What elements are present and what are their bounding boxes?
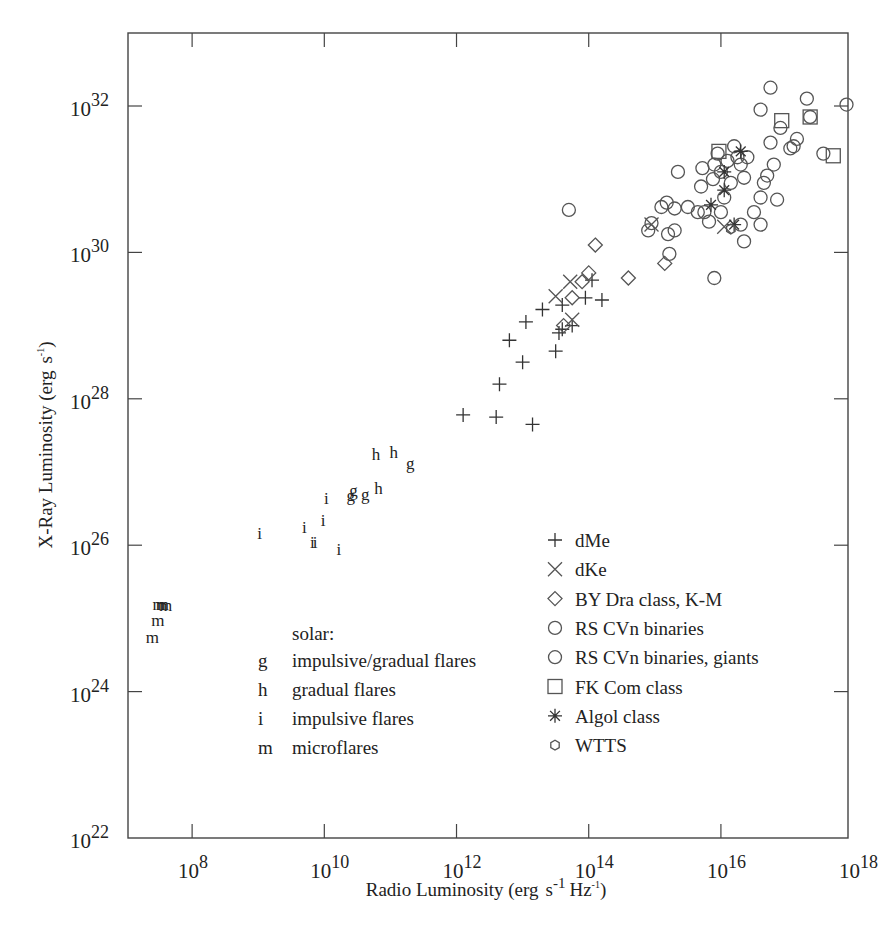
stellar-legend-label: RS CVn binaries [575, 618, 704, 639]
data-points: mmmmmiiiiiiigggghhh [146, 81, 853, 647]
solar-legend-label: impulsive/gradual flares [292, 650, 476, 671]
letter-marker-i: i [302, 518, 307, 537]
stellar-legend-item: Algol class [548, 706, 660, 727]
solar-legend-item: gimpulsive/gradual flares [258, 650, 476, 671]
stellar-legend-item: dKe [548, 559, 607, 580]
stellar-legend-label: RS CVn binaries, giants [575, 647, 759, 668]
solar-legend-heading: solar: [292, 623, 334, 644]
plus-marker [489, 410, 503, 424]
circle-marker [734, 158, 747, 171]
y-tick-label: 1022 [70, 822, 109, 853]
solar-legend-symbol: m [258, 737, 273, 758]
x-axis-ticks: 10810101012101410161018 [178, 33, 878, 883]
letter-marker-h: h [372, 445, 381, 464]
y-tick-label: 1030 [70, 236, 109, 267]
circle-marker [714, 206, 727, 219]
solar-legend-symbol: i [258, 708, 263, 729]
circle-marker [800, 92, 813, 105]
circle-marker [764, 81, 777, 94]
plus-marker [595, 293, 609, 307]
stellar-legend-label: dKe [575, 559, 607, 580]
letter-marker-i: i [324, 489, 329, 508]
circle-marker [804, 110, 817, 123]
circle-marker [754, 191, 767, 204]
letter-marker-i: i [313, 533, 318, 552]
series-dke [549, 218, 732, 327]
stellar-legend-item: FK Com class [548, 677, 683, 698]
plus-marker [548, 533, 562, 547]
circle-marker [695, 180, 708, 193]
circle-marker [757, 176, 770, 189]
circle-marker [696, 162, 709, 175]
hexagon-marker [551, 740, 559, 750]
plus-marker [516, 355, 530, 369]
solar-legend-label: impulsive flares [292, 708, 414, 729]
circle-marker [787, 140, 800, 153]
circle-marker [764, 136, 777, 149]
diamond-marker [588, 238, 602, 252]
diamond-marker [548, 592, 562, 606]
series-impulsive-flares-i-: iiiiiii [257, 489, 341, 559]
square-marker [826, 149, 840, 163]
series-gradual-flares-h-: hhh [372, 443, 399, 498]
circle-marker [754, 218, 767, 231]
solar-legend: solar:gimpulsive/gradual flareshgradual … [258, 623, 476, 758]
asterisk-marker [717, 183, 731, 197]
circle-marker [645, 217, 658, 230]
plus-marker [578, 291, 592, 305]
circle-marker [549, 621, 562, 634]
x-marker [717, 220, 731, 234]
x-axis-title: Radio Luminosity (ergs-1Hz-1) [366, 875, 606, 901]
stellar-legend-label: dMe [575, 530, 610, 551]
diamond-marker [582, 266, 596, 280]
y-tick-label: 1024 [70, 676, 109, 707]
diamond-marker [575, 275, 589, 289]
circle-marker [549, 651, 562, 664]
asterisk-marker [734, 144, 748, 158]
plus-marker [565, 319, 579, 333]
solar-legend-label: gradual flares [292, 679, 396, 700]
circle-marker [738, 235, 751, 248]
y-tick-label: 1026 [70, 529, 109, 560]
circle-marker [771, 193, 784, 206]
stellar-legend-label: FK Com class [575, 677, 683, 698]
stellar-legend-item: dMe [548, 530, 610, 551]
letter-marker-h: h [374, 479, 383, 498]
stellar-legend-item: RS CVn binaries [549, 618, 704, 639]
y-tick-label: 1028 [70, 383, 109, 414]
letter-marker-i: i [321, 511, 326, 530]
letter-marker-g: g [361, 485, 370, 504]
series-microflares-m-: mmmmm [146, 595, 172, 647]
solar-legend-label: microflares [292, 737, 379, 758]
stellar-legend-item: WTTS [551, 735, 627, 756]
stellar-legend: dMedKeBY Dra class, K-MRS CVn binariesRS… [548, 530, 759, 756]
solar-legend-item: iimpulsive flares [258, 708, 414, 729]
stellar-legend-item: RS CVn binaries, giants [549, 647, 759, 668]
letter-marker-g: g [406, 454, 415, 473]
circle-marker [754, 103, 767, 116]
letter-marker-h: h [389, 443, 398, 462]
square-marker [548, 680, 562, 694]
series-dme [456, 273, 609, 431]
circle-marker [747, 206, 760, 219]
y-axis-ticks: 102210241026102810301032 [70, 90, 848, 853]
letter-marker-i: i [336, 540, 341, 559]
stellar-legend-label: Algol class [575, 706, 660, 727]
asterisk-marker [548, 709, 562, 723]
series-rs-cvn-binaries-incl-giants- [562, 81, 853, 284]
x-tick-label: 108 [178, 852, 208, 883]
solar-legend-item: hgradual flares [258, 679, 396, 700]
x-tick-label: 1016 [707, 852, 746, 883]
letter-marker-g: g [349, 481, 358, 500]
circle-marker [642, 224, 655, 237]
plus-marker [502, 333, 516, 347]
circle-marker [663, 247, 676, 260]
asterisk-marker [704, 198, 718, 212]
scatter-chart: 10810101012101410161018 1022102410261028… [0, 0, 893, 935]
x-marker [548, 562, 562, 576]
plus-marker [456, 408, 470, 422]
solar-legend-item: mmicroflares [258, 737, 379, 758]
circle-marker [681, 201, 694, 214]
plus-marker [549, 344, 563, 358]
x-tick-label: 1010 [310, 852, 349, 883]
